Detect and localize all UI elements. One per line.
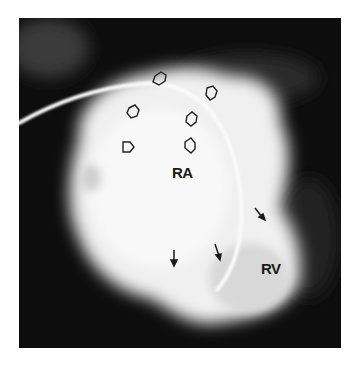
rv-label: RV bbox=[261, 260, 281, 277]
ra-label: RA bbox=[172, 164, 193, 181]
angiogram-graphic bbox=[19, 18, 341, 348]
angiogram-image: RA RV bbox=[19, 18, 341, 348]
